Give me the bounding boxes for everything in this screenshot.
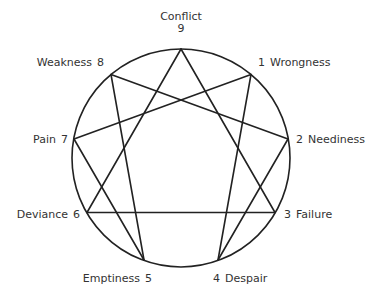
connection-line-9-3 bbox=[181, 49, 275, 213]
point-2-name: Neediness bbox=[308, 133, 365, 146]
point-6-number: 6 bbox=[73, 208, 80, 221]
point-4-number: 4 bbox=[213, 272, 220, 285]
point-8-label: Weakness8 bbox=[37, 56, 104, 69]
point-8-name: Weakness bbox=[37, 56, 92, 69]
point-5-label: Emptiness5 bbox=[83, 272, 152, 285]
point-6-name: Deviance bbox=[17, 208, 68, 221]
point-3-label: 3Failure bbox=[284, 208, 332, 221]
point-7-name: Pain bbox=[33, 133, 56, 146]
point-9-label: Conflict 9 bbox=[160, 11, 202, 35]
point-5-name: Emptiness bbox=[83, 272, 140, 285]
point-1-number: 1 bbox=[258, 56, 265, 69]
point-1-name: Wrongness bbox=[270, 56, 331, 69]
point-5-number: 5 bbox=[145, 272, 152, 285]
point-2-label: 2Neediness bbox=[296, 133, 365, 146]
point-7-label: Pain7 bbox=[33, 133, 68, 146]
point-6-label: Deviance6 bbox=[17, 208, 80, 221]
enneagram-lines bbox=[74, 49, 288, 260]
point-7-number: 7 bbox=[61, 133, 68, 146]
point-2-number: 2 bbox=[296, 133, 303, 146]
point-3-number: 3 bbox=[284, 208, 291, 221]
connection-line-6-9 bbox=[87, 49, 181, 213]
point-4-label: 4Despair bbox=[213, 272, 267, 285]
point-8-number: 8 bbox=[97, 56, 104, 69]
point-4-name: Despair bbox=[225, 272, 267, 285]
enneagram-circle bbox=[72, 49, 290, 267]
point-1-label: 1Wrongness bbox=[258, 56, 331, 69]
point-3-name: Failure bbox=[296, 208, 332, 221]
enneagram-diagram bbox=[0, 0, 380, 300]
point-9-number: 9 bbox=[160, 23, 202, 35]
